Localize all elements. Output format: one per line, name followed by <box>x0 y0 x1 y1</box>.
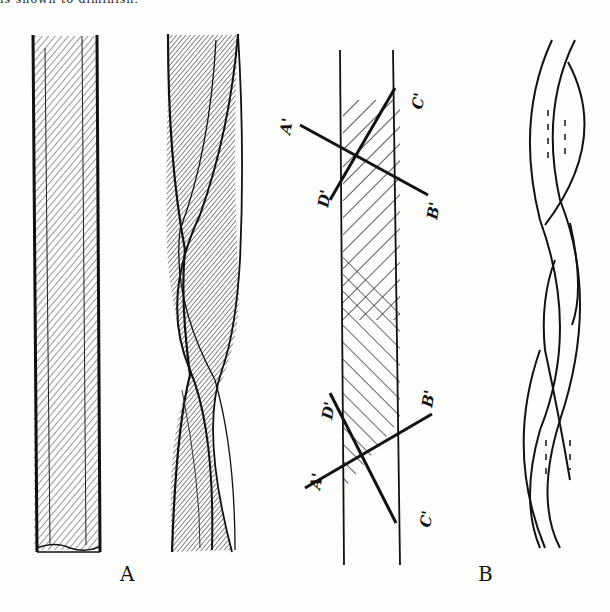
label-B-upper: B' <box>423 201 444 222</box>
label-A-lower: A' <box>306 472 327 493</box>
label-D-lower: D' <box>318 400 339 421</box>
label-A-upper: A' <box>276 117 297 138</box>
twisted-ribbon-outline <box>524 40 585 548</box>
caption-panel-A: A <box>120 562 134 586</box>
label-C-lower: C' <box>416 509 437 528</box>
twisted-fibre <box>166 34 242 552</box>
label-B-lower: B' <box>418 389 439 410</box>
caption-panel-B: B <box>478 562 493 586</box>
ribbon-diagram: A' B' C' D' A' B' C' D' <box>276 50 444 565</box>
straight-fibre <box>33 35 100 552</box>
figure-illustration: A' B' C' D' A' B' C' D' <box>0 0 610 612</box>
label-C-upper: C' <box>408 91 429 110</box>
label-D-upper: D' <box>314 188 335 209</box>
